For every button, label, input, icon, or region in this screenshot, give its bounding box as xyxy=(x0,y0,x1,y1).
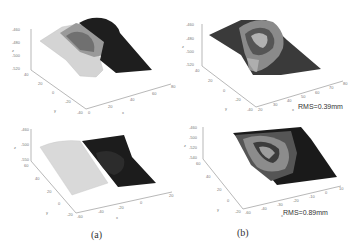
y-tick: 60 xyxy=(24,163,29,168)
x-tick: -30 xyxy=(277,202,284,207)
y-tick: 60 xyxy=(196,161,201,166)
y-axis-label: y xyxy=(225,106,227,111)
z-axis-label: z xyxy=(14,145,16,150)
x-tick: 0 xyxy=(88,110,91,115)
x-tick: 50 xyxy=(301,94,306,99)
z-axis-label: z xyxy=(182,44,184,49)
z-tick: -520 xyxy=(12,66,21,71)
x-tick: 40 xyxy=(287,98,292,103)
x-axis-label: x xyxy=(116,215,118,220)
caption-a: (a) xyxy=(91,229,102,240)
x-tick: 80 xyxy=(171,84,176,89)
y-tick: -20 xyxy=(65,99,72,104)
x-tick: 60 xyxy=(152,91,157,96)
z-tick: -460 xyxy=(189,125,198,130)
z-tick: -550 xyxy=(21,157,30,162)
y-axis-label: y xyxy=(54,108,56,113)
panel-b-top: -460 -480 -500 -520 z 40 20 0 -20 -40 y … xyxy=(181,0,362,125)
y-tick: 20 xyxy=(208,78,213,83)
x-tick: 40 xyxy=(130,97,135,102)
z-tick: -500 xyxy=(21,142,30,147)
y-tick: -20 xyxy=(235,209,242,214)
x-tick: 80 xyxy=(343,81,348,86)
panel-a-bottom: -460 -500 -550 z 60 40 20 0 -20 y -60 -4… xyxy=(0,125,181,250)
y-tick: -20 xyxy=(67,212,74,217)
x-tick: 20 xyxy=(169,193,174,198)
y-tick: 40 xyxy=(24,72,29,77)
x-tick: 70 xyxy=(329,85,334,90)
rms-annotation: RMS=0.39mm xyxy=(298,103,343,110)
x-tick: 60 xyxy=(315,90,320,95)
z-tick: -500 xyxy=(186,49,195,54)
caption-b: (b) xyxy=(237,227,249,238)
x-tick: -60 xyxy=(77,214,84,219)
y-tick: 20 xyxy=(47,189,52,194)
x-tick: 30 xyxy=(273,102,278,107)
z-tick: -460 xyxy=(21,127,30,132)
z-axis-label: z xyxy=(12,48,14,53)
x-axis-label: x xyxy=(122,110,124,115)
x-tick: -40 xyxy=(261,206,268,211)
x-axis-label: x xyxy=(292,107,294,112)
y-tick: 40 xyxy=(195,68,200,73)
surface-plot-b-bottom: -460 -500 -520 -540 z 60 40 20 0 -20 y -… xyxy=(181,125,362,251)
x-tick: -10 xyxy=(309,194,316,199)
x-tick: -20 xyxy=(293,198,300,203)
surface-plot-a-top: -460 -480 -500 -520 z 40 20 0 -20 -40 y … xyxy=(0,0,181,125)
x-tick: -40 xyxy=(98,209,105,214)
y-tick: -20 xyxy=(235,97,242,102)
z-tick: -460 xyxy=(12,27,21,32)
y-tick: 0 xyxy=(58,201,61,206)
z-tick: -460 xyxy=(186,22,195,27)
z-tick: -500 xyxy=(189,135,198,140)
z-tick: -480 xyxy=(186,36,195,41)
x-tick: -60 xyxy=(245,210,252,215)
z-tick: -520 xyxy=(186,62,195,67)
y-tick: 0 xyxy=(227,198,230,203)
z-tick: -540 xyxy=(189,155,198,160)
y-tick: -40 xyxy=(77,110,84,115)
panel-a-top: -460 -480 -500 -520 z 40 20 0 -20 -40 y … xyxy=(0,0,181,125)
x-tick: 20 xyxy=(258,107,263,112)
x-tick: 0 xyxy=(325,190,328,195)
x-tick: 0 xyxy=(140,200,143,205)
x-tick: -20 xyxy=(118,205,125,210)
z-tick: -520 xyxy=(189,145,198,150)
z-tick: -480 xyxy=(12,40,21,45)
y-tick: 20 xyxy=(217,187,222,192)
y-tick: 20 xyxy=(38,81,43,86)
y-tick: 0 xyxy=(223,88,226,93)
y-axis-label: y xyxy=(217,207,219,212)
y-tick: 40 xyxy=(35,176,40,181)
y-tick: -40 xyxy=(247,107,254,112)
z-axis-label: z xyxy=(184,143,186,148)
y-tick: 40 xyxy=(206,174,211,179)
z-tick: -500 xyxy=(12,53,21,58)
y-tick: 0 xyxy=(52,90,55,95)
y-axis-label: y xyxy=(46,210,48,215)
x-tick: 10 xyxy=(339,186,344,191)
rms-annotation: RMS=0.89mm xyxy=(283,209,328,216)
x-tick: 20 xyxy=(108,104,113,109)
panel-b-bottom: -460 -500 -520 -540 z 60 40 20 0 -20 y -… xyxy=(181,125,362,250)
